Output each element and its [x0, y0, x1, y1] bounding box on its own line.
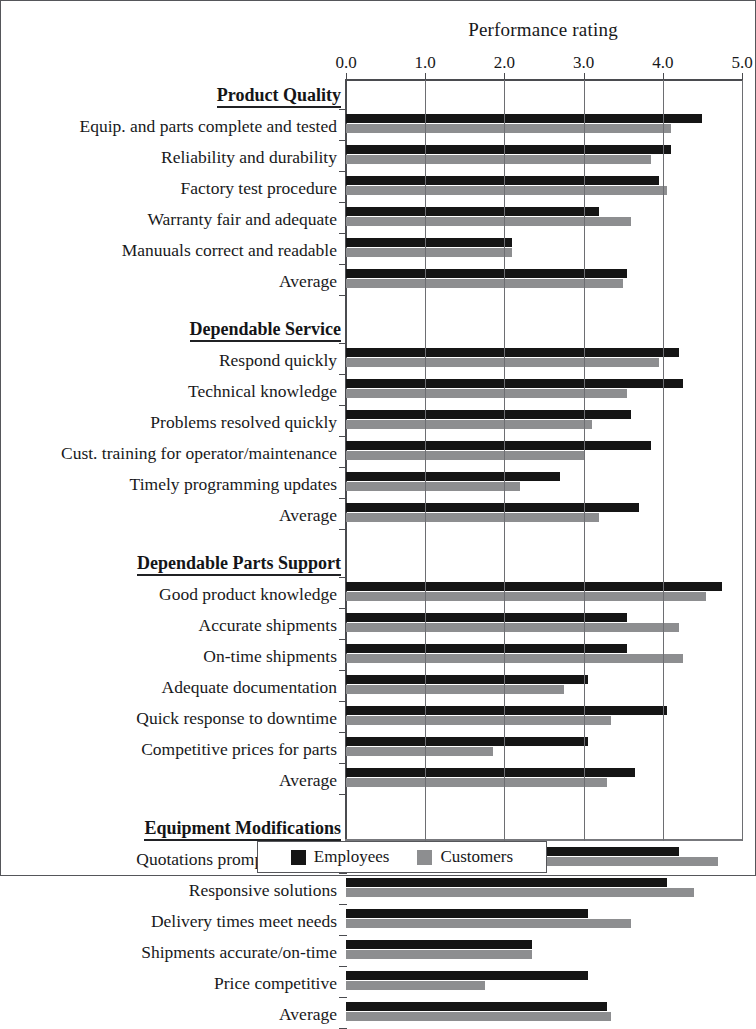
row-label: Technical knowledge — [1, 381, 337, 401]
row-label: Respond quickly — [1, 350, 337, 370]
bar-customers — [346, 482, 520, 491]
row-tick — [339, 763, 347, 764]
row-tick — [339, 498, 347, 499]
bar-employees — [346, 878, 667, 887]
bar-customers — [346, 451, 584, 460]
bar-employees — [346, 706, 667, 715]
row-label: Average — [1, 770, 337, 790]
row-label: Price competitive — [1, 973, 337, 993]
bar-employees — [346, 441, 651, 450]
bar-employees — [346, 613, 627, 622]
gridline — [663, 80, 664, 841]
legend-entry-customers: Customers — [417, 847, 513, 867]
row-tick — [339, 732, 347, 733]
section-header-label: Product Quality — [217, 85, 341, 108]
row-label: Factory test procedure — [1, 178, 337, 198]
gridline — [584, 80, 585, 841]
bar-customers — [346, 513, 599, 522]
row-label: Manuuals correct and readable — [1, 240, 337, 260]
bar-customers — [346, 1012, 611, 1021]
bar-customers — [346, 186, 667, 195]
row-tick — [339, 171, 347, 172]
bar-customers — [346, 919, 631, 928]
bar-employees — [346, 971, 588, 980]
row-label: Shipments accurate/on-time — [1, 942, 337, 962]
row-tick — [339, 529, 347, 530]
bar-employees — [346, 114, 702, 123]
chart-legend: Employees Customers — [257, 841, 547, 873]
row-tick — [339, 467, 347, 468]
bar-customers — [346, 217, 631, 226]
row-tick — [339, 904, 347, 905]
legend-swatch-customers-icon — [417, 850, 432, 865]
row-label: Good product knowledge — [1, 584, 337, 604]
row-tick — [339, 997, 347, 998]
row-label: Competitive prices for parts — [1, 739, 337, 759]
bar-customers — [346, 623, 679, 632]
bar-employees — [346, 940, 532, 949]
row-label: Cust. training for operator/maintenance — [1, 443, 337, 463]
row-label: Equip. and parts complete and tested — [1, 116, 337, 136]
row-tick — [339, 374, 347, 375]
section-header-label: Dependable Parts Support — [137, 553, 341, 576]
row-label: Responsive solutions — [1, 880, 337, 900]
row-label: Average — [1, 505, 337, 525]
legend-swatch-employees-icon — [291, 850, 306, 865]
section-header-1: Product Quality — [1, 85, 341, 108]
bar-customers — [346, 124, 671, 133]
bar-employees — [346, 644, 627, 653]
row-label: Delivery times meet needs — [1, 911, 337, 931]
bar-employees — [346, 269, 627, 278]
row-tick — [339, 233, 347, 234]
bar-customers — [346, 778, 607, 787]
row-tick — [339, 140, 347, 141]
row-label: On-time shipments — [1, 646, 337, 666]
bar-customers — [346, 420, 592, 429]
row-tick — [339, 873, 347, 874]
bar-customers — [346, 279, 623, 288]
x-axis-tick-mark — [346, 73, 347, 81]
row-label: Accurate shipments — [1, 615, 337, 635]
bar-employees — [346, 675, 588, 684]
bar-employees — [346, 379, 683, 388]
bar-customers — [346, 950, 532, 959]
legend-label-customers: Customers — [440, 847, 513, 867]
section-header-label: Equipment Modifications — [144, 818, 341, 841]
row-tick — [339, 264, 347, 265]
bar-employees — [346, 503, 639, 512]
row-tick — [339, 343, 347, 344]
bar-customers — [346, 654, 683, 663]
gridline — [742, 80, 743, 841]
row-label: Warranty fair and adequate — [1, 209, 337, 229]
row-label: Average — [1, 271, 337, 291]
section-header-3: Dependable Parts Support — [1, 553, 341, 576]
row-label: Average — [1, 1004, 337, 1024]
bar-employees — [346, 1002, 607, 1011]
chart-rows-layer: Product QualityEquip. and parts complete… — [1, 1, 756, 877]
row-label: Reliability and durability — [1, 147, 337, 167]
row-label: Quick response to downtime — [1, 708, 337, 728]
bar-employees — [346, 582, 722, 591]
row-label: Timely programming updates — [1, 474, 337, 494]
row-tick — [339, 966, 347, 967]
legend-entry-employees: Employees — [291, 847, 390, 867]
bar-customers — [346, 155, 651, 164]
row-tick — [339, 202, 347, 203]
row-tick — [339, 701, 347, 702]
section-header-label: Dependable Service — [190, 319, 341, 342]
bar-customers — [346, 592, 706, 601]
section-header-4: Equipment Modifications — [1, 818, 341, 841]
row-tick — [339, 639, 347, 640]
bar-customers — [346, 716, 611, 725]
row-tick — [339, 670, 347, 671]
bar-employees — [346, 145, 671, 154]
bar-customers — [346, 248, 512, 257]
bar-employees — [346, 768, 635, 777]
row-tick — [339, 794, 347, 795]
bar-employees — [346, 238, 512, 247]
bar-customers — [346, 981, 485, 990]
bar-customers — [346, 747, 493, 756]
row-tick — [339, 577, 347, 578]
row-tick — [339, 935, 347, 936]
